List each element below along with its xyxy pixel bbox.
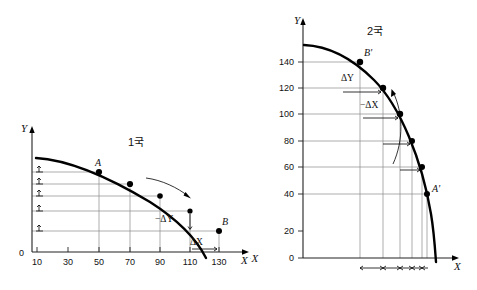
- left-y-axis-label: Y: [21, 122, 29, 134]
- left-x-tick-label: 50: [94, 257, 104, 267]
- right-grid-horizontal: [303, 62, 427, 194]
- left-x-tick-label: 30: [63, 257, 73, 267]
- left-delta-y-label: −ΔY: [155, 214, 173, 224]
- right-y-tick-label: 0: [289, 253, 294, 263]
- right-point-label-a-prime: A': [431, 183, 441, 194]
- right-direction-arrow: [391, 89, 401, 164]
- left-x-tick-label: 70: [125, 257, 135, 267]
- right-delta-x-label: −ΔX: [360, 100, 378, 110]
- right-y-tick-label: 120: [279, 83, 294, 93]
- right-y-tick-label: 140: [279, 57, 294, 67]
- right-x-axis-label: X: [453, 260, 462, 272]
- left-grid-horizontal: [32, 172, 219, 231]
- left-x-tick-label: 110: [183, 257, 197, 267]
- right-neg-x-axis-label: −X: [250, 252, 259, 264]
- left-x-ticks: [37, 247, 219, 252]
- right-axes: [300, 18, 459, 261]
- left-x-tick-label: 10: [32, 257, 42, 267]
- left-direction-arrow: [146, 178, 191, 199]
- right-delta-y-label: ΔY: [341, 73, 354, 83]
- right-panel-title: 2국: [367, 25, 383, 37]
- left-point-label-a: A: [94, 157, 102, 168]
- right-data-points: [357, 59, 430, 197]
- right-delta-arrows: [343, 90, 420, 172]
- left-panel-title: 1국: [128, 136, 144, 148]
- left-point-label-b: B: [222, 216, 228, 227]
- left-x-axis-label: X: [240, 254, 249, 266]
- left-delta-x-label: ΔX: [190, 237, 203, 247]
- right-y-tick-label: 100: [279, 109, 294, 119]
- left-origin-label: 0: [19, 248, 24, 258]
- figure-canvas: Y X 0 1국 10 30 50 70 90 110 130 A B −ΔY …: [0, 0, 477, 290]
- left-ppf-curve: [36, 158, 206, 258]
- left-x-tick-label: 130: [211, 257, 226, 267]
- left-panel-chart: Y X 0 1국 10 30 50 70 90 110 130 A B −ΔY …: [0, 0, 250, 290]
- right-y-tick-label: 40: [284, 189, 294, 199]
- right-ppf-curve: [304, 45, 436, 262]
- right-y-tick-label: 80: [284, 136, 294, 146]
- right-y-ticks: [298, 62, 303, 258]
- left-x-tick-label: 90: [155, 257, 165, 267]
- left-data-points: [96, 169, 222, 234]
- right-point-label-b-prime: B': [364, 47, 373, 58]
- right-y-tick-label: 20: [284, 226, 294, 236]
- left-y-tick-arrows: [36, 166, 43, 231]
- right-panel-chart: Y X −X 2국 0 20 40 60 80 100 120 140 B' A…: [250, 0, 477, 290]
- right-y-tick-label: 60: [284, 162, 294, 172]
- right-bottom-interval-arrows: [360, 266, 428, 270]
